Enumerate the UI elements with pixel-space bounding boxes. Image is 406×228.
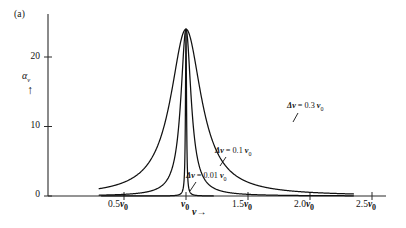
curve-delta-nu-0-1 [99, 29, 353, 196]
label-leader-lines [190, 113, 298, 191]
curve-group [99, 29, 353, 196]
figure-panel-a: (a) αν ↑ ν→ 20 10 0 0.5ν0 ν0 1.5ν0 2.0ν0… [0, 0, 406, 228]
leader-line-0-01 [190, 182, 196, 191]
leader-line-0-3 [293, 113, 298, 122]
curve-delta-nu-0-01 [102, 29, 214, 196]
curve-delta-nu-0-3 [99, 29, 353, 194]
plot-area [0, 0, 406, 228]
axis-lines [48, 14, 386, 196]
